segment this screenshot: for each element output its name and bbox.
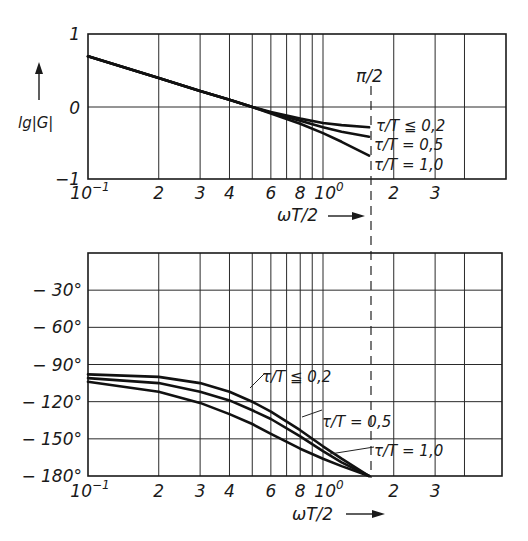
xtick-label: 10−1 — [70, 180, 109, 203]
phase-ytick-label: − 30° — [32, 280, 82, 300]
label-tau-02-top: τ/T ≦ 0,2 — [376, 117, 445, 135]
xtick-label: 2 — [153, 183, 164, 203]
label-tau-05-bottom: τ/T = 0,5 — [322, 413, 391, 431]
magnitude-xticks: 10−12346810023 — [70, 180, 440, 203]
xtick-label: 10−1 — [70, 478, 109, 501]
xtick-label: 4 — [224, 183, 235, 203]
right-arrow-icon — [328, 212, 365, 220]
magnitude-curves — [88, 56, 369, 155]
magnitude-grid — [88, 34, 506, 179]
magnitude-xlabel: ωT/2 — [277, 205, 318, 225]
ytick-1: 1 — [69, 24, 80, 44]
xtick-label: 2 — [388, 183, 399, 203]
phase-yticks: − 30°− 60°− 90°− 120°− 150°− 180° — [21, 280, 82, 486]
up-arrow-icon — [35, 62, 43, 100]
phase-ytick-label: − 120° — [21, 392, 82, 412]
magnitude-curve — [88, 56, 369, 155]
xtick-label: 2 — [153, 481, 164, 501]
xtick-label: 3 — [430, 481, 441, 501]
label-tau-10-top: τ/T = 1,0 — [374, 156, 443, 174]
label-tau-02-bottom: τ/T ≦ 0,2 — [262, 368, 331, 386]
xtick-label: 4 — [224, 481, 235, 501]
phase-ytick-label: − 150° — [21, 429, 82, 449]
xtick-label: 8 — [295, 481, 306, 501]
xtick-label: 6 — [265, 183, 276, 203]
phase-ytick-label: − 60° — [32, 317, 82, 337]
magnitude-chart: 1 0 −1 lg|G| 10−12346810023 ωT/2 π/2 τ/T… — [18, 24, 506, 225]
xtick-label: 8 — [295, 183, 306, 203]
xtick-label: 6 — [265, 481, 276, 501]
phase-ytick-label: − 90° — [32, 355, 82, 375]
label-tau-10-bottom: τ/T = 1,0 — [374, 442, 443, 460]
leader-tau-10 — [330, 447, 374, 454]
phase-xticks: 10−12346810023 — [70, 478, 440, 501]
magnitude-ylabel: lg|G| — [18, 114, 53, 132]
ytick-0: 0 — [69, 98, 80, 118]
pi-half-label: π/2 — [356, 66, 383, 86]
right-arrow-icon — [346, 510, 385, 518]
xtick-label: 100 — [314, 478, 344, 501]
xtick-label: 2 — [388, 481, 399, 501]
phase-chart: − 30°− 60°− 90°− 120°− 150°− 180° 10−123… — [21, 253, 502, 524]
label-tau-05-top: τ/T = 0,5 — [374, 136, 443, 154]
bode-figure: 1 0 −1 lg|G| 10−12346810023 ωT/2 π/2 τ/T… — [0, 0, 528, 541]
phase-xlabel: ωT/2 — [292, 504, 333, 524]
xtick-label: 3 — [195, 481, 206, 501]
magnitude-curve — [88, 56, 369, 127]
xtick-label: 3 — [430, 183, 441, 203]
xtick-label: 100 — [314, 180, 344, 203]
xtick-label: 3 — [195, 183, 206, 203]
